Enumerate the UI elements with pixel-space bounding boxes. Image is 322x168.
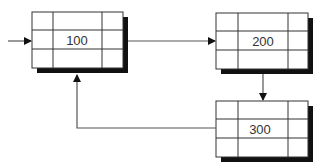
node-2: 200 [216, 13, 313, 74]
linked-list-diagram: 100 200 300 [0, 0, 322, 168]
node-1-label: 100 [66, 33, 88, 48]
node-1: 100 [32, 12, 128, 73]
node-2-label: 200 [252, 34, 274, 49]
node-3: 300 [216, 101, 313, 162]
edge-3-to-1 [77, 75, 216, 128]
node-3-label: 300 [249, 122, 271, 137]
